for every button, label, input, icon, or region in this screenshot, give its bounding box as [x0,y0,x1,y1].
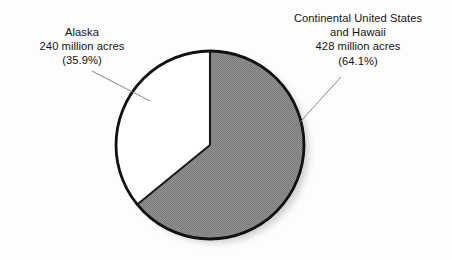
pie-label-continental: Continental United States and Hawaii 428… [272,11,444,68]
alaska-value-line: 240 million acres [6,39,158,53]
alaska-percent-line: (35.9%) [6,53,158,67]
leader-line-continental [291,77,341,132]
pie-label-alaska: Alaska 240 million acres (35.9%) [6,25,158,68]
pie-chart-figure: Alaska 240 million acres (35.9%) Contine… [0,0,452,261]
continental-value-line: 428 million acres [272,39,444,53]
continental-name-line-1: Continental United States [272,11,444,25]
alaska-name-line: Alaska [6,25,158,39]
continental-name-line-2: and Hawaii [272,25,444,39]
continental-percent-line: (64.1%) [272,54,444,68]
